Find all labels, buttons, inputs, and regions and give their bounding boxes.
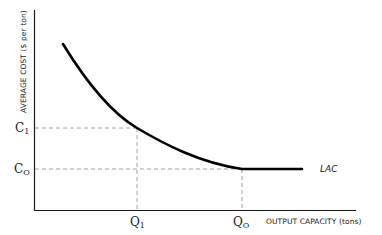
lac-curve <box>63 44 302 169</box>
lac-label: LAC <box>320 164 338 174</box>
c1-label: C1 <box>15 121 29 136</box>
q0-label: QO <box>233 215 250 230</box>
q1-label: Q1 <box>130 215 145 230</box>
x-axis-title: OUTPUT CAPACITY (tons) <box>266 217 362 226</box>
y-axis-title: AVERAGE COST ($ per ton) <box>19 10 28 113</box>
c0-label: CO <box>14 162 30 177</box>
lac-chart: AVERAGE COST ($ per ton) C1 CO Q1 QO OUT… <box>0 0 382 235</box>
